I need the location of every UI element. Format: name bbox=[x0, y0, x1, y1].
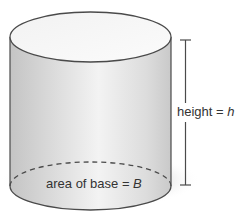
height-variable: h bbox=[227, 104, 234, 119]
base-area-label: area of base = B bbox=[46, 176, 142, 191]
base-area-variable: B bbox=[133, 176, 142, 191]
base-area-label-text: area of base = bbox=[46, 176, 133, 191]
height-label-text: height = bbox=[177, 104, 227, 119]
cylinder-top-face bbox=[10, 12, 171, 62]
height-label: height = h bbox=[177, 104, 234, 119]
